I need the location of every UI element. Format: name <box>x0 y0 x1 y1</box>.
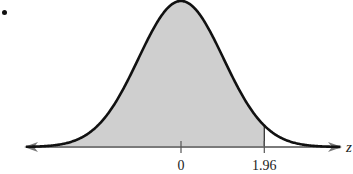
normal-curve-chart: 01.96 z <box>0 0 353 174</box>
shaded-area <box>26 1 264 147</box>
tick-label: 1.96 <box>252 158 277 173</box>
tick-label: 0 <box>178 158 185 173</box>
axis-label-z: z <box>345 139 352 155</box>
